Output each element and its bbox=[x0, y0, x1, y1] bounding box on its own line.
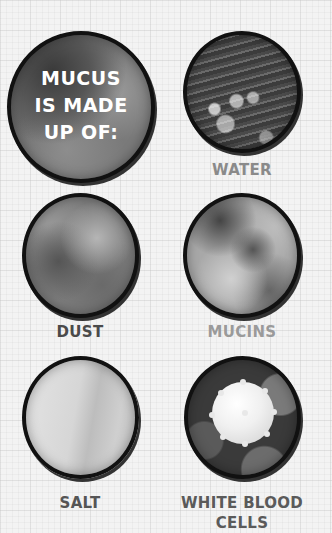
label-line: CELLS bbox=[170, 513, 314, 533]
title-line: IS MADE bbox=[34, 92, 127, 119]
water-label: WATER bbox=[182, 160, 302, 180]
white-blood-cell-icon bbox=[212, 382, 274, 444]
title-line: UP OF: bbox=[34, 119, 127, 146]
mucins-image bbox=[183, 193, 301, 318]
title-circle: MUCUS IS MADE UP OF: bbox=[7, 31, 155, 183]
title-line: MUCUS bbox=[34, 65, 127, 92]
white-blood-cells-label: WHITE BLOOD CELLS bbox=[170, 493, 314, 533]
water-image bbox=[183, 31, 301, 153]
white-blood-cell-image bbox=[184, 356, 301, 479]
mucins-label: MUCINS bbox=[182, 322, 302, 342]
salt-label: SALT bbox=[20, 493, 140, 513]
label-line: WHITE BLOOD bbox=[170, 493, 314, 513]
dust-label: DUST bbox=[20, 322, 140, 342]
title-text: MUCUS IS MADE UP OF: bbox=[34, 65, 127, 146]
salt-image bbox=[22, 356, 139, 479]
dust-image bbox=[22, 193, 139, 318]
